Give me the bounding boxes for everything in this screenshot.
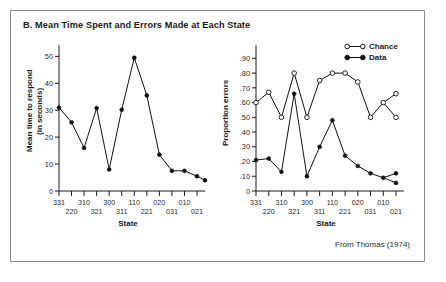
figure-frame: B. Mean Time Spent and Errors Made at Ea… — [10, 10, 425, 262]
legend-label-chance: Chance — [369, 41, 398, 52]
x-tick-label: 020 — [347, 198, 369, 207]
svg-text:0: 0 — [49, 187, 53, 196]
x-axis-title-time: State — [39, 219, 217, 228]
x-tick-label: 310 — [270, 198, 292, 207]
svg-text:0: 0 — [246, 187, 250, 196]
x-tick-label: 321 — [283, 207, 305, 216]
x-tick-label: 300 — [98, 198, 120, 207]
legend-item-data: Data — [344, 52, 398, 63]
x-tick-label: 010 — [173, 198, 195, 207]
svg-text:40: 40 — [45, 79, 53, 88]
legend-label-data: Data — [369, 52, 386, 63]
x-tick-label: 331 — [245, 198, 267, 207]
x-tick-label: 311 — [309, 207, 331, 216]
x-tick-label: 010 — [372, 198, 394, 207]
x-axis-title-errors: State — [236, 219, 416, 228]
x-tick-label: 221 — [136, 207, 158, 216]
x-tick-label: 021 — [385, 207, 407, 216]
figure-title: B. Mean Time Spent and Errors Made at Ea… — [23, 20, 250, 30]
x-tick-label: 021 — [186, 207, 208, 216]
x-tick-label: 110 — [123, 198, 145, 207]
svg-text:.30: .30 — [240, 142, 250, 151]
x-tick-label: 321 — [86, 207, 108, 216]
svg-text:.80: .80 — [240, 69, 250, 78]
x-tick-label: 331 — [48, 198, 70, 207]
svg-text:.20: .20 — [240, 157, 250, 166]
x-tick-label: 220 — [258, 207, 280, 216]
legend-marker-chance-icon — [344, 42, 366, 51]
svg-text:.70: .70 — [240, 84, 250, 93]
svg-text:.90: .90 — [240, 54, 250, 63]
legend: Chance Data — [344, 41, 398, 63]
x-tick-label: 110 — [321, 198, 343, 207]
svg-text:.60: .60 — [240, 98, 250, 107]
x-tick-label: 221 — [334, 207, 356, 216]
x-tick-label: 310 — [73, 198, 95, 207]
svg-text:20: 20 — [45, 133, 53, 142]
svg-text:.50: .50 — [240, 113, 250, 122]
x-tick-label: 031 — [161, 207, 183, 216]
panel-proportion-errors: Proportion errors 0.10.20.30.40.50.60.70… — [216, 39, 421, 235]
svg-text:50: 50 — [45, 52, 53, 61]
x-tick-label: 311 — [111, 207, 133, 216]
x-tick-label: 220 — [61, 207, 83, 216]
svg-text:.10: .10 — [240, 172, 250, 181]
x-tick-label: 020 — [148, 198, 170, 207]
svg-text:10: 10 — [45, 160, 53, 169]
attribution: From Thomas (1974) — [335, 240, 410, 249]
x-tick-label: 300 — [296, 198, 318, 207]
panel-mean-time: Mean time to respond (in seconds) 010203… — [19, 39, 219, 235]
x-tick-label: 031 — [360, 207, 382, 216]
legend-item-chance: Chance — [344, 41, 398, 52]
svg-text:.40: .40 — [240, 128, 250, 137]
svg-text:30: 30 — [45, 106, 53, 115]
legend-marker-data-icon — [344, 53, 366, 62]
